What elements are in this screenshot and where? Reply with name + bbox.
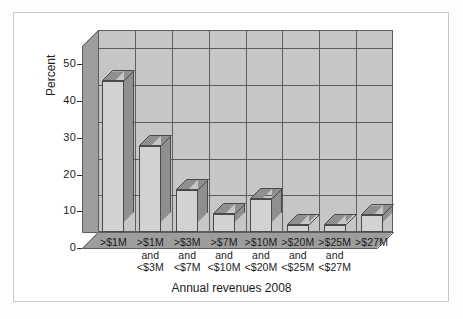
bar-front-face xyxy=(250,199,272,232)
left-wall-3d xyxy=(82,30,98,232)
bar-top-outline xyxy=(139,135,172,146)
bar-front-face xyxy=(287,225,309,232)
y-tick-mark xyxy=(77,175,82,176)
bar xyxy=(102,81,124,232)
gridline-vertical xyxy=(172,30,173,232)
bar-top-outline xyxy=(324,214,357,225)
y-tick-mark xyxy=(77,138,82,139)
gridline-vertical xyxy=(246,30,247,232)
bar-front-face xyxy=(213,214,235,232)
x-category-line: <$27M xyxy=(309,261,361,274)
bar-front-face xyxy=(324,225,346,232)
y-tick-mark xyxy=(77,211,82,212)
bar xyxy=(139,146,161,232)
x-category-label: >$27M xyxy=(346,236,398,249)
x-axis-title: Annual revenues 2008 xyxy=(0,281,463,295)
bar-front-face xyxy=(102,81,124,232)
bar-side-face xyxy=(124,71,134,222)
y-tick-label: 0 xyxy=(50,241,76,253)
y-tick-label: 20 xyxy=(50,168,76,180)
gridline-vertical xyxy=(356,30,357,232)
bar-top-outline xyxy=(213,203,246,214)
bar-front-face xyxy=(139,146,161,232)
bar xyxy=(361,215,383,232)
bar xyxy=(287,225,309,232)
gridline-vertical xyxy=(135,30,136,232)
gridline-vertical xyxy=(282,30,283,232)
bar xyxy=(250,199,272,232)
bar-top-outline xyxy=(176,179,209,190)
gridline-vertical xyxy=(319,30,320,232)
bar-top-outline xyxy=(102,70,135,81)
bar xyxy=(213,214,235,232)
bar-chart: Percent 01020304050 >$1M>$1Mand<$3M>$3Ma… xyxy=(0,0,463,319)
bar xyxy=(176,190,198,232)
bar-top-outline xyxy=(250,188,283,199)
y-tick-label: 50 xyxy=(50,57,76,69)
bar-side-face xyxy=(161,136,171,222)
gridline-vertical xyxy=(209,30,210,232)
bar xyxy=(324,225,346,232)
bar-top-outline xyxy=(287,214,320,225)
x-category-line: and xyxy=(309,249,361,262)
bar-top-outline xyxy=(361,204,394,215)
bar-front-face xyxy=(361,215,383,232)
y-tick-mark xyxy=(77,64,82,65)
y-tick-label: 30 xyxy=(50,131,76,143)
y-tick-label: 40 xyxy=(50,94,76,106)
x-category-line: >$27M xyxy=(346,236,398,249)
y-tick-mark xyxy=(77,101,82,102)
plot-area xyxy=(98,30,393,232)
bar-front-face xyxy=(176,190,198,232)
y-tick-label: 10 xyxy=(50,204,76,216)
screenshot-root: Percent 01020304050 >$1M>$1Mand<$3M>$3Ma… xyxy=(0,0,463,319)
